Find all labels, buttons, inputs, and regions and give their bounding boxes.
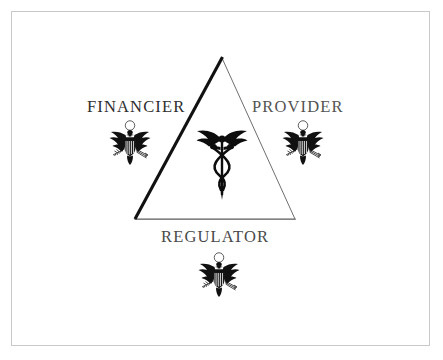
caduceus-icon — [192, 124, 252, 200]
figure-canvas: FINANCIER — [0, 0, 443, 360]
node-label-financier: FINANCIER — [87, 99, 185, 116]
us-eagle-seal-icon — [192, 249, 246, 301]
node-label-provider: PROVIDER — [252, 99, 344, 116]
node-label-regulator: REGULATOR — [161, 229, 269, 246]
us-eagle-seal-icon — [276, 117, 330, 169]
us-eagle-seal-icon — [103, 117, 157, 169]
